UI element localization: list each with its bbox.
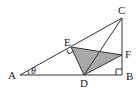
right-angle-marker-b <box>116 69 122 75</box>
point-label-f: F <box>125 48 131 60</box>
point-label-d: D <box>80 77 88 89</box>
point-label-c: C <box>118 4 125 16</box>
shaded-triangle-def <box>71 47 122 75</box>
angle-label-theta: θ <box>31 65 36 76</box>
point-label-e: E <box>64 36 71 48</box>
point-label-b: B <box>126 70 133 82</box>
segment-dc <box>84 18 122 75</box>
geometry-diagram: A B C D E F θ <box>0 0 140 92</box>
angle-arc-a <box>28 71 29 75</box>
point-label-a: A <box>8 69 16 81</box>
